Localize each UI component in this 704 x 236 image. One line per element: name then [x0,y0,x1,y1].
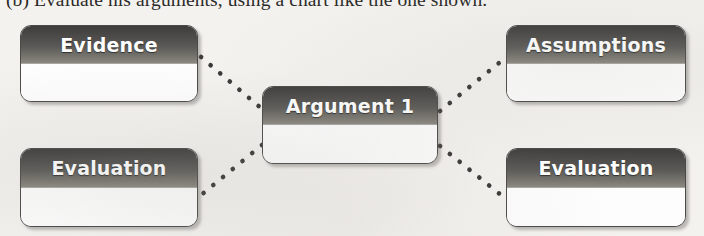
node-assumptions[interactable]: Assumptions [506,25,686,102]
connector-argument-to-evaluation-left [200,145,262,196]
concept-chart-figure: (b) Evaluate his arguments, using a char… [0,0,704,236]
node-argument-1[interactable]: Argument 1 [262,86,438,164]
node-evidence-header: Evidence [21,26,197,64]
node-assumptions-header: Assumptions [507,26,685,64]
node-evaluation-right[interactable]: Evaluation [506,148,686,227]
node-evaluation-right-header: Evaluation [507,149,685,188]
node-evidence-title: Evidence [60,34,158,56]
node-evaluation-right-body[interactable] [507,188,685,227]
node-evaluation-right-title: Evaluation [538,157,653,179]
connector-evidence-to-argument [201,57,262,109]
node-evaluation-left-title: Evaluation [51,157,166,179]
node-assumptions-title: Assumptions [526,34,666,56]
node-argument-1-header: Argument 1 [263,87,437,125]
node-evaluation-left-body[interactable] [21,188,197,227]
node-evaluation-left-header: Evaluation [21,149,197,188]
node-argument-1-title: Argument 1 [286,95,414,117]
node-evidence[interactable]: Evidence [20,25,198,102]
figure-caption: (b) Evaluate his arguments, using a char… [6,0,696,11]
connector-argument-to-assumptions [440,58,505,111]
node-argument-1-body[interactable] [263,125,437,163]
node-assumptions-body[interactable] [507,64,685,102]
connector-argument-to-evaluation-right [440,146,506,199]
node-evaluation-left[interactable]: Evaluation [20,148,198,227]
node-evidence-body[interactable] [21,64,197,102]
